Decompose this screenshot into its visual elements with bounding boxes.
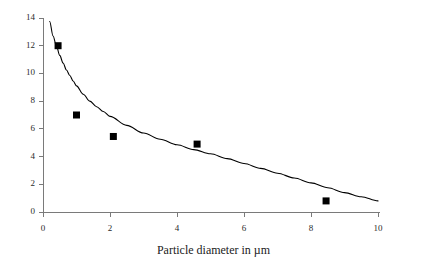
y-tick-label: 2 — [7, 179, 35, 188]
x-tick-label: 10 — [364, 224, 392, 233]
x-tick-label: 8 — [297, 224, 325, 233]
y-tick-label: 14 — [7, 13, 35, 22]
fitted-curve-path — [50, 21, 378, 200]
chart-plot-area — [0, 0, 427, 268]
data-point-marker — [110, 133, 117, 140]
x-tick-label: 6 — [230, 224, 258, 233]
y-tick-label: 4 — [7, 152, 35, 161]
x-tick-label: 2 — [96, 224, 124, 233]
data-point-marker — [194, 141, 201, 148]
data-point-marker — [323, 197, 330, 204]
y-tick-label: 6 — [7, 124, 35, 133]
data-point-markers — [55, 42, 330, 204]
x-tick-label: 0 — [29, 224, 57, 233]
y-tick-label: 0 — [7, 207, 35, 216]
y-tick-label: 10 — [7, 68, 35, 77]
data-point-marker — [55, 42, 62, 49]
y-tick-label: 8 — [7, 96, 35, 105]
x-axis-title: Particle diameter in µm — [0, 243, 427, 258]
y-axis-ticks — [39, 18, 43, 212]
axes-group — [43, 18, 380, 212]
data-point-marker — [73, 112, 80, 119]
x-tick-label: 4 — [163, 224, 191, 233]
y-tick-label: 12 — [7, 41, 35, 50]
x-axis-ticks — [43, 212, 378, 217]
chart-figure: 02468101214 0246810 Particle diameter in… — [0, 0, 427, 268]
